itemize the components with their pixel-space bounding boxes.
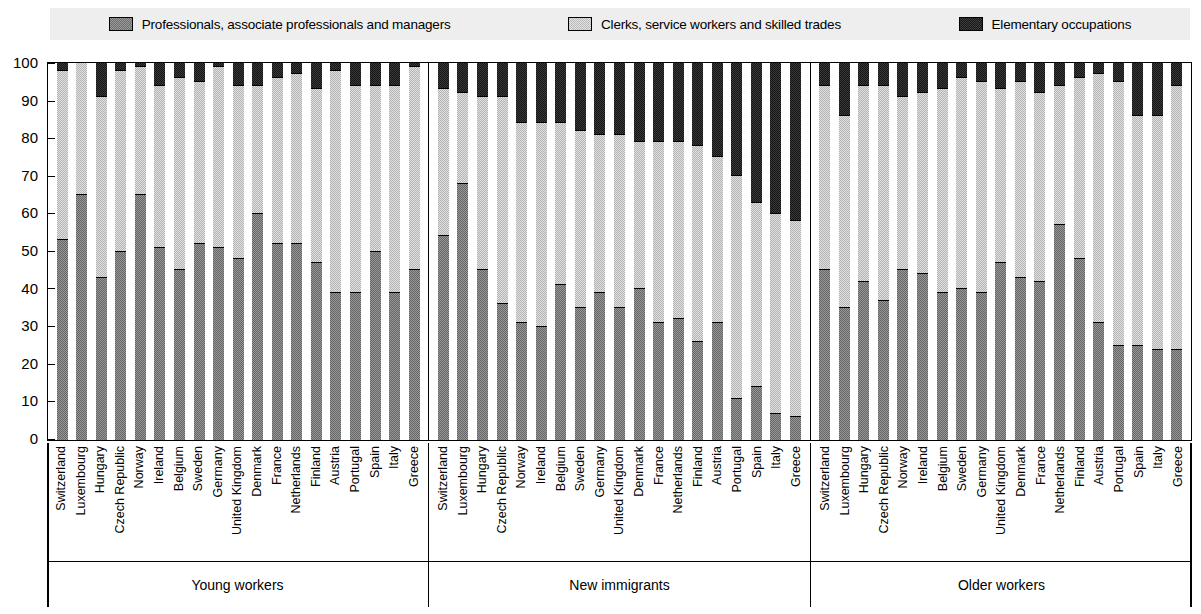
bar-luxembourg[interactable] xyxy=(839,63,850,440)
x-label-france: France xyxy=(270,446,283,485)
bar-segment-elem xyxy=(272,63,283,78)
bar-hungary[interactable] xyxy=(858,63,869,440)
bar-austria[interactable] xyxy=(712,63,723,440)
bar-germany[interactable] xyxy=(213,63,224,440)
x-label-portugal: Portugal xyxy=(1113,446,1126,493)
x-label-finland: Finland xyxy=(692,446,705,487)
bar-ireland[interactable] xyxy=(536,63,547,440)
x-label-slot: Czech Republic xyxy=(114,443,125,561)
bar-united-kingdom[interactable] xyxy=(233,63,244,440)
bar-portugal[interactable] xyxy=(731,63,742,440)
bar-segment-prof xyxy=(858,282,869,440)
bar-denmark[interactable] xyxy=(1015,63,1026,440)
bar-belgium[interactable] xyxy=(937,63,948,440)
bar-spain[interactable] xyxy=(370,63,381,440)
bar-segment-prof xyxy=(897,270,908,440)
bar-segment-prof xyxy=(438,236,449,440)
bar-portugal[interactable] xyxy=(350,63,361,440)
bar-finland[interactable] xyxy=(311,63,322,440)
bar-czech-republic[interactable] xyxy=(497,63,508,440)
bar-greece[interactable] xyxy=(790,63,801,440)
x-label-slot: Germany xyxy=(594,443,605,561)
bar-finland[interactable] xyxy=(692,63,703,440)
bar-spain[interactable] xyxy=(751,63,762,440)
bar-netherlands[interactable] xyxy=(291,63,302,440)
x-label-ireland: Ireland xyxy=(917,446,930,484)
bar-italy[interactable] xyxy=(389,63,400,440)
bar-france[interactable] xyxy=(653,63,664,440)
bar-switzerland[interactable] xyxy=(57,63,68,440)
bar-belgium[interactable] xyxy=(174,63,185,440)
x-label-austria: Austria xyxy=(329,446,342,485)
x-label-spain: Spain xyxy=(750,446,763,478)
bar-norway[interactable] xyxy=(897,63,908,440)
x-label-slot: Finland xyxy=(692,443,703,561)
bar-segment-clerk xyxy=(233,86,244,259)
bar-segment-clerk xyxy=(937,89,948,293)
bar-netherlands[interactable] xyxy=(1054,63,1065,440)
bar-luxembourg[interactable] xyxy=(457,63,468,440)
bar-segment-elem xyxy=(790,63,801,221)
y-tick-30: 30 xyxy=(21,318,38,333)
x-label-finland: Finland xyxy=(310,446,323,487)
bar-segment-prof xyxy=(653,323,664,440)
bar-sweden[interactable] xyxy=(194,63,205,440)
bar-greece[interactable] xyxy=(409,63,420,440)
x-label-slot: United Kingdom xyxy=(614,443,625,561)
bar-united-kingdom[interactable] xyxy=(995,63,1006,440)
bar-segment-clerk xyxy=(1034,93,1045,282)
bar-germany[interactable] xyxy=(976,63,987,440)
bar-hungary[interactable] xyxy=(96,63,107,440)
x-label-slot: Netherlands xyxy=(291,443,302,561)
bar-segment-elem xyxy=(438,63,449,89)
bar-segment-clerk xyxy=(213,67,224,248)
bar-ireland[interactable] xyxy=(154,63,165,440)
bar-italy[interactable] xyxy=(770,63,781,440)
bar-segment-prof xyxy=(1132,346,1143,440)
bar-belgium[interactable] xyxy=(555,63,566,440)
x-label-slot: Greece xyxy=(1172,443,1183,561)
x-label-slot: United Kingdom xyxy=(232,443,243,561)
x-label-slot: Luxembourg xyxy=(457,443,468,561)
bar-denmark[interactable] xyxy=(252,63,263,440)
bar-hungary[interactable] xyxy=(477,63,488,440)
x-label-slot: Ireland xyxy=(536,443,547,561)
bar-switzerland[interactable] xyxy=(438,63,449,440)
bar-segment-elem xyxy=(819,63,830,86)
bar-segment-prof xyxy=(389,293,400,440)
bar-segment-clerk xyxy=(174,78,185,270)
bar-denmark[interactable] xyxy=(634,63,645,440)
bar-austria[interactable] xyxy=(1093,63,1104,440)
x-axis-country-labels: SwitzerlandLuxembourgHungaryCzech Republ… xyxy=(47,443,1192,561)
bar-sweden[interactable] xyxy=(575,63,586,440)
bar-luxembourg[interactable] xyxy=(76,63,87,440)
bar-france[interactable] xyxy=(1034,63,1045,440)
bar-segment-prof xyxy=(770,414,781,440)
x-label-netherlands: Netherlands xyxy=(672,446,685,513)
x-label-luxembourg: Luxembourg xyxy=(74,446,87,516)
bar-spain[interactable] xyxy=(1132,63,1143,440)
bar-finland[interactable] xyxy=(1074,63,1085,440)
bar-greece[interactable] xyxy=(1171,63,1182,440)
x-label-slot: Germany xyxy=(976,443,987,561)
bar-czech-republic[interactable] xyxy=(115,63,126,440)
bar-norway[interactable] xyxy=(516,63,527,440)
bar-france[interactable] xyxy=(272,63,283,440)
x-label-germany: Germany xyxy=(212,446,225,497)
bar-portugal[interactable] xyxy=(1113,63,1124,440)
bar-netherlands[interactable] xyxy=(673,63,684,440)
x-label-belgium: Belgium xyxy=(172,446,185,491)
bar-czech-republic[interactable] xyxy=(878,63,889,440)
x-label-denmark: Denmark xyxy=(251,446,264,497)
x-label-slot: Netherlands xyxy=(673,443,684,561)
bar-united-kingdom[interactable] xyxy=(614,63,625,440)
bar-norway[interactable] xyxy=(135,63,146,440)
bar-germany[interactable] xyxy=(594,63,605,440)
bar-italy[interactable] xyxy=(1152,63,1163,440)
bar-ireland[interactable] xyxy=(917,63,928,440)
bar-switzerland[interactable] xyxy=(819,63,830,440)
bar-segment-clerk xyxy=(956,78,967,289)
bar-austria[interactable] xyxy=(330,63,341,440)
bar-segment-prof xyxy=(516,323,527,440)
bar-sweden[interactable] xyxy=(956,63,967,440)
